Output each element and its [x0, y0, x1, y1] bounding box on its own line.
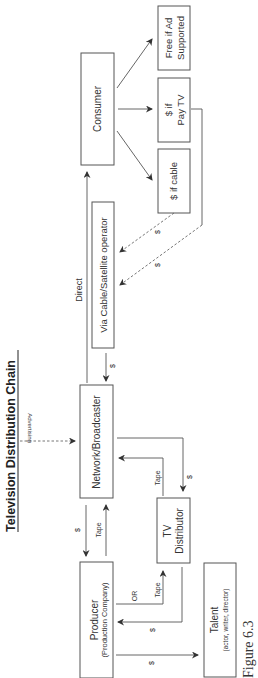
consumer-box: Consumer	[81, 53, 114, 165]
arrow-paytv-payment-to-operator	[120, 225, 202, 285]
talent-box: Talent (actor, writer, director)	[204, 563, 236, 677]
cable-payment-box: $ if cable	[158, 149, 190, 213]
edge-label-direct: Direct	[74, 278, 84, 302]
edge-label-money-3: $	[148, 661, 155, 665]
arrow-consumer-to-free	[117, 39, 152, 88]
tv-distributor-box: TV Distributor	[157, 498, 190, 563]
edge-label-money-4: $	[186, 475, 193, 479]
arrow-consumer-to-cable	[117, 131, 152, 180]
paytv-payment-box: $ if Pay TV	[158, 78, 190, 142]
paytv-label-2: Pay TV	[175, 94, 186, 126]
diagram-canvas: Television Distribution Chain Producer (…	[0, 0, 258, 678]
via-cable-box: Via Cable/Satellite operator	[92, 202, 114, 348]
tv-distributor-label-1: TV	[162, 524, 173, 537]
talent-sublabel: (actor, writer, director)	[222, 589, 230, 652]
edge-label-advertising: Advertising	[27, 413, 33, 443]
edge-label-money-6: $	[154, 230, 161, 234]
free-ad-label-1: Free if Ad	[163, 18, 174, 59]
producer-box: Producer (Production Company)	[80, 562, 113, 678]
edge-label-money-2: $	[149, 628, 156, 632]
edge-label-money-5: $	[109, 364, 116, 368]
edge-label-money: $	[74, 528, 81, 532]
edge-label-tape-2: Tape	[154, 582, 162, 597]
figure-label: Figure 6.3	[241, 620, 256, 678]
via-cable-label: Via Cable/Satellite operator	[98, 217, 109, 332]
edge-label-or: OR	[131, 591, 138, 602]
tv-distributor-label-2: Distributor	[174, 508, 185, 554]
paytv-label-1: $ if	[163, 103, 174, 116]
edge-label-tape: Tape	[95, 522, 103, 537]
network-label: Network/Broadcaster	[91, 395, 102, 489]
arrow-distributor-to-producer	[118, 567, 182, 622]
free-ad-box: Free if Ad Supported	[158, 6, 190, 70]
network-broadcaster-box: Network/Broadcaster	[80, 385, 113, 498]
cable-payment-label: $ if cable	[168, 162, 179, 200]
producer-sublabel: (Production Company)	[100, 582, 109, 658]
arrow-network-to-distributor	[117, 438, 183, 491]
arrow-cable-payment-to-operator	[120, 213, 174, 252]
producer-label: Producer	[89, 599, 100, 640]
paytv-connector-line	[191, 109, 202, 225]
consumer-label: Consumer	[92, 85, 103, 132]
free-ad-label-2: Supported	[175, 16, 186, 60]
talent-label: Talent	[209, 606, 220, 633]
diagram-title: Television Distribution Chain	[4, 360, 18, 532]
edge-label-money-7: $	[154, 263, 161, 267]
edge-label-tape-3: Tape	[154, 470, 162, 485]
